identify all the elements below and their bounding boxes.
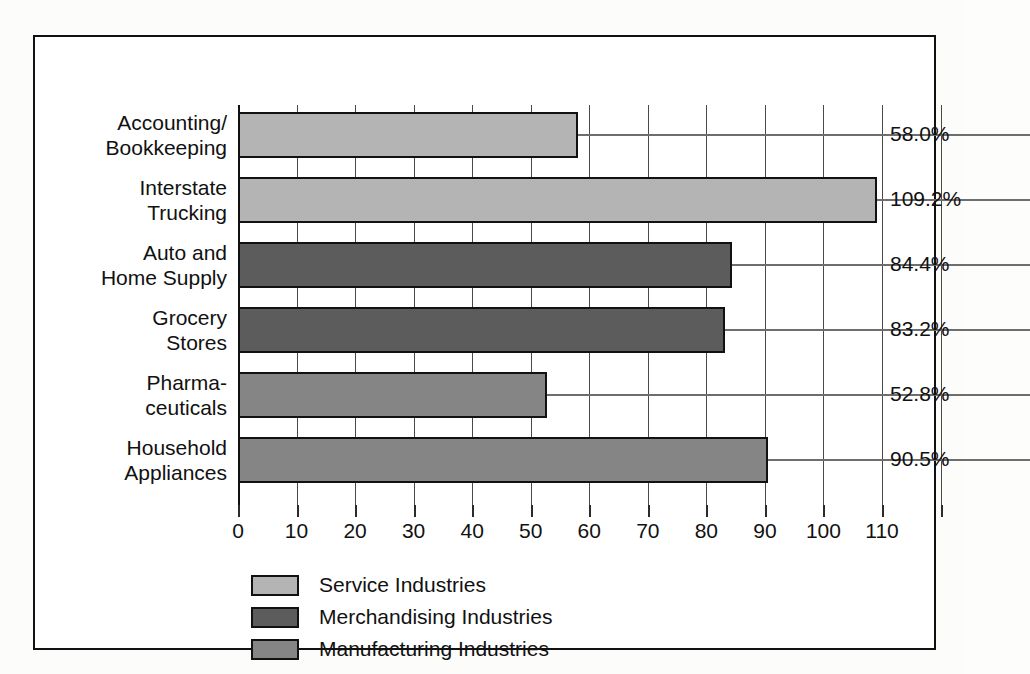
legend-item: Service Industries	[251, 570, 711, 600]
axis-tick-label: 80	[695, 519, 718, 543]
category-label: Pharma- ceuticals	[57, 370, 227, 420]
legend-item: Merchandising Industries	[251, 602, 711, 632]
bar	[238, 177, 877, 223]
legend-item: Manufacturing Industries	[251, 634, 711, 664]
value-axis: 0102030405060708090100110	[238, 505, 938, 551]
data-value-labels: 58.0%109.2%84.4%83.2%52.8%90.5%	[882, 105, 977, 505]
axis-tick-label: 20	[343, 519, 366, 543]
axis-tick	[706, 505, 708, 517]
bar	[238, 437, 768, 483]
axis-tick-label: 40	[460, 519, 483, 543]
legend-swatch	[251, 639, 299, 660]
gridline	[823, 105, 824, 505]
legend-swatch	[251, 607, 299, 628]
bar	[238, 242, 732, 288]
axis-tick	[941, 505, 943, 517]
value-label: 83.2%	[890, 317, 950, 341]
legend-label: Merchandising Industries	[319, 605, 552, 629]
value-label: 58.0%	[890, 122, 950, 146]
value-label: 52.8%	[890, 382, 950, 406]
category-label: Household Appliances	[57, 435, 227, 485]
value-label: 90.5%	[890, 447, 950, 471]
axis-tick	[472, 505, 474, 517]
chart-frame: Accounting/ BookkeepingInterstate Trucki…	[33, 35, 936, 650]
axis-tick-label: 30	[402, 519, 425, 543]
legend-label: Manufacturing Industries	[319, 637, 549, 661]
category-label: Accounting/ Bookkeeping	[57, 110, 227, 160]
category-label: Auto and Home Supply	[57, 240, 227, 290]
axis-tick	[823, 505, 825, 517]
axis-tick-label: 0	[232, 519, 244, 543]
category-label: Grocery Stores	[57, 305, 227, 355]
value-label: 84.4%	[890, 252, 950, 276]
axis-tick-label: 60	[578, 519, 601, 543]
axis-tick	[531, 505, 533, 517]
axis-tick-label: 50	[519, 519, 542, 543]
value-leader-line	[725, 329, 1030, 331]
value-axis-baseline	[238, 105, 240, 505]
bar	[238, 307, 725, 353]
axis-tick	[882, 505, 884, 517]
axis-tick	[648, 505, 650, 517]
axis-tick-label: 10	[285, 519, 308, 543]
axis-tick-label: 70	[636, 519, 659, 543]
value-label: 109.2%	[890, 187, 961, 211]
legend-swatch	[251, 575, 299, 596]
legend: Service IndustriesMerchandising Industri…	[251, 570, 711, 666]
axis-tick	[238, 505, 240, 517]
axis-tick-label: 110	[865, 519, 898, 543]
axis-tick	[297, 505, 299, 517]
category-axis-labels: Accounting/ BookkeepingInterstate Trucki…	[57, 105, 227, 505]
axis-tick	[589, 505, 591, 517]
axis-tick	[414, 505, 416, 517]
bar	[238, 372, 547, 418]
axis-tick-label: 100	[806, 519, 841, 543]
category-label: Interstate Trucking	[57, 175, 227, 225]
legend-label: Service Industries	[319, 573, 486, 597]
axis-tick	[765, 505, 767, 517]
axis-tick	[355, 505, 357, 517]
axis-tick-label: 90	[753, 519, 776, 543]
bar	[238, 112, 578, 158]
plot-area	[238, 105, 882, 505]
